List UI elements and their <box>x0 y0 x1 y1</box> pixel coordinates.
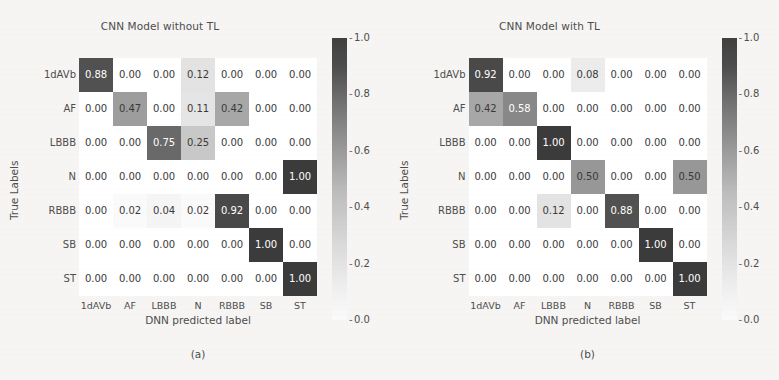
colorbar-tick-label: 0.6 <box>354 145 370 156</box>
y-axis-tick-label: 1dAVb <box>410 69 466 81</box>
heatmap-cell-value: 0.02 <box>181 194 215 228</box>
heatmap-cell-value: 0.00 <box>249 194 283 228</box>
heatmap-cell-value: 0.00 <box>639 194 673 228</box>
colorbar-tick: -0.6 <box>349 145 370 157</box>
heatmap-cell-value: 0.00 <box>537 228 571 262</box>
heatmap-cell-value: 0.00 <box>113 160 147 194</box>
colorbar-tick-label: 0.4 <box>354 201 370 212</box>
panel-b: CNN Model with TL True Labels 1dAVbAFLBB… <box>390 0 779 380</box>
heatmap-cell-value: 0.42 <box>469 92 503 126</box>
heatmap-cell-value: 0.00 <box>673 58 707 92</box>
x-axis-tick-label: 1dAVb <box>469 300 503 311</box>
x-axis-tick-label: SB <box>639 300 673 311</box>
x-axis-tick-label: N <box>181 300 215 311</box>
heatmap-cell-value: 0.00 <box>571 228 605 262</box>
heatmap-cell-value: 0.00 <box>283 228 317 262</box>
colorbar-tick-label: 1.0 <box>744 32 760 43</box>
heatmap-cell-value: 0.00 <box>605 58 639 92</box>
colorbar-tick: -0.6 <box>739 145 760 157</box>
heatmap-cell-value: 0.00 <box>571 126 605 160</box>
heatmap-cell-value: 0.00 <box>605 160 639 194</box>
heatmap-cell-value: 0.58 <box>503 92 537 126</box>
heatmap-cell-value: 0.00 <box>181 262 215 296</box>
heatmap-cell-value: 0.88 <box>605 194 639 228</box>
panel-a-ytick-group: 1dAVbAFLBBBNRBBBSBST <box>18 0 76 380</box>
colorbar-tick-label: 1.0 <box>354 32 370 43</box>
heatmap-cell-value: 0.00 <box>113 262 147 296</box>
heatmap-cell-value: 0.00 <box>249 126 283 160</box>
colorbar-tick: -0.8 <box>739 88 760 100</box>
colorbar-tick-label: 0.6 <box>744 145 760 156</box>
heatmap-cell-value: 0.00 <box>503 194 537 228</box>
heatmap-cell-value: 0.00 <box>249 92 283 126</box>
heatmap-cell-value: 0.00 <box>79 126 113 160</box>
heatmap-cell-value: 0.00 <box>639 262 673 296</box>
colorbar-tick: -0.8 <box>349 88 370 100</box>
heatmap-cell-value: 0.00 <box>113 58 147 92</box>
heatmap-cell-value: 0.00 <box>469 160 503 194</box>
heatmap-cell-value: 1.00 <box>283 160 317 194</box>
colorbar-tick-label: 0.0 <box>744 314 760 325</box>
colorbar-tick-label: 0.4 <box>744 201 760 212</box>
heatmap-cell-value: 0.00 <box>537 262 571 296</box>
heatmap-cell-value: 0.00 <box>147 228 181 262</box>
heatmap-cell-value: 0.00 <box>215 126 249 160</box>
heatmap-cell-value: 0.50 <box>571 160 605 194</box>
colorbar-tick: -0.0 <box>349 314 370 326</box>
heatmap-cell-value: 0.00 <box>639 160 673 194</box>
confusion-matrix-figure: CNN Model without TL True Labels 1dAVbAF… <box>0 0 779 380</box>
heatmap-cell-value: 0.00 <box>79 160 113 194</box>
heatmap-cell-value: 0.00 <box>673 126 707 160</box>
panel-a-colorbar <box>332 38 347 320</box>
y-axis-tick-label: SB <box>410 239 466 251</box>
heatmap-cell-value: 0.12 <box>537 194 571 228</box>
heatmap-cell-value: 0.11 <box>181 92 215 126</box>
heatmap-cell-value: 0.42 <box>215 92 249 126</box>
heatmap-cell-value: 0.00 <box>283 194 317 228</box>
heatmap-cell-value: 0.00 <box>215 262 249 296</box>
heatmap-cell-value: 0.00 <box>215 228 249 262</box>
heatmap-cell-value: 0.00 <box>469 126 503 160</box>
panel-b-heatmap-grid: 0.920.000.000.080.000.000.000.420.580.00… <box>469 58 707 296</box>
heatmap-cell-value: 0.00 <box>503 58 537 92</box>
colorbar-tick: -1.0 <box>739 32 760 44</box>
heatmap-cell-value: 0.00 <box>639 92 673 126</box>
colorbar-tick: -0.2 <box>349 258 370 270</box>
heatmap-cell-value: 0.50 <box>673 160 707 194</box>
heatmap-cell-value: 0.00 <box>571 194 605 228</box>
colorbar-tick-label: 0.8 <box>744 88 760 99</box>
y-axis-tick-label: ST <box>20 273 76 285</box>
heatmap-cell-value: 0.00 <box>537 160 571 194</box>
heatmap-cell-value: 1.00 <box>249 228 283 262</box>
heatmap-cell-value: 0.00 <box>571 262 605 296</box>
heatmap-cell-value: 0.00 <box>79 194 113 228</box>
heatmap-cell-value: 0.47 <box>113 92 147 126</box>
x-axis-tick-label: LBBB <box>147 300 181 311</box>
heatmap-cell-value: 0.88 <box>79 58 113 92</box>
heatmap-cell-value: 0.00 <box>503 262 537 296</box>
heatmap-cell-value: 0.00 <box>249 58 283 92</box>
heatmap-cell-value: 0.00 <box>537 92 571 126</box>
x-axis-tick-label: RBBB <box>215 300 249 311</box>
heatmap-cell-value: 0.02 <box>113 194 147 228</box>
heatmap-cell-value: 0.00 <box>503 126 537 160</box>
colorbar-tick: -1.0 <box>349 32 370 44</box>
y-axis-tick-label: AF <box>410 103 466 115</box>
heatmap-cell-value: 1.00 <box>283 262 317 296</box>
colorbar-tick: -0.0 <box>739 314 760 326</box>
heatmap-cell-value: 0.25 <box>181 126 215 160</box>
heatmap-cell-value: 0.00 <box>673 228 707 262</box>
y-axis-tick-label: 1dAVb <box>20 69 76 81</box>
heatmap-cell-value: 0.00 <box>79 92 113 126</box>
panel-b-ytick-group: 1dAVbAFLBBBNRBBBSBST <box>408 0 466 380</box>
panel-b-caption: (b) <box>469 348 707 360</box>
heatmap-cell-value: 0.00 <box>181 160 215 194</box>
x-axis-tick-label: AF <box>503 300 537 311</box>
heatmap-cell-value: 0.00 <box>605 92 639 126</box>
heatmap-cell-value: 0.00 <box>605 262 639 296</box>
heatmap-cell-value: 0.00 <box>673 92 707 126</box>
panel-a: CNN Model without TL True Labels 1dAVbAF… <box>0 0 390 380</box>
heatmap-cell-value: 0.00 <box>469 262 503 296</box>
y-axis-tick-label: N <box>410 171 466 183</box>
heatmap-cell-value: 0.00 <box>571 92 605 126</box>
